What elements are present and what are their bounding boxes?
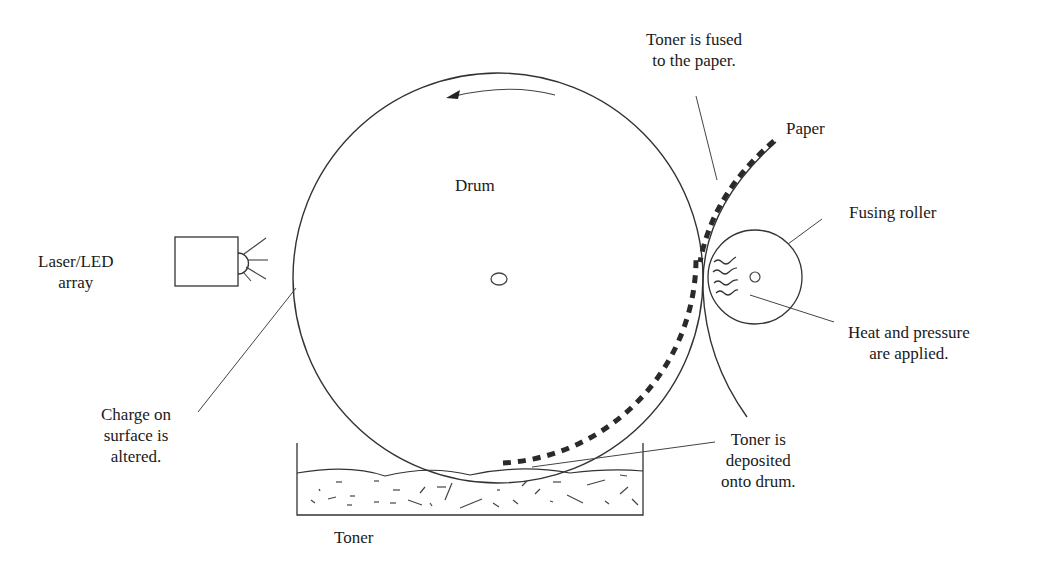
led-bulb-icon: [238, 253, 249, 274]
rotation-arrow-icon: [455, 89, 555, 96]
heat-waves-icon: [713, 257, 738, 295]
label-charge-line1: Charge on: [101, 404, 171, 425]
paper: [703, 142, 776, 417]
label-toner-fused: Toner is fused to the paper.: [646, 29, 742, 71]
label-fusing-roller: Fusing roller: [849, 202, 936, 223]
label-heat-line1: Heat and pressure: [848, 322, 970, 343]
label-deposited-line3: onto drum.: [721, 471, 796, 492]
toner-surface: [297, 469, 643, 476]
fusing-roller-axle: [750, 272, 760, 282]
label-drum: Drum: [455, 175, 495, 196]
laser-printer-diagram: [0, 0, 1038, 574]
drum: [293, 73, 703, 483]
label-fused-line2: to the paper.: [646, 50, 742, 71]
label-toner-deposited: Toner is deposited onto drum.: [721, 429, 796, 492]
toner-particles: [311, 475, 638, 508]
toner-on-drum: [503, 260, 696, 463]
drum-axle: [491, 273, 507, 285]
label-charge-line2: surface is: [101, 425, 171, 446]
label-toner: Toner: [334, 527, 373, 548]
arrowhead-icon: [446, 90, 460, 99]
label-charge-line3: altered.: [101, 446, 171, 467]
label-deposited-line2: deposited: [721, 450, 796, 471]
label-paper: Paper: [786, 118, 825, 139]
label-laser-line1: Laser/LED: [38, 251, 114, 272]
toner-on-paper: [700, 141, 774, 262]
label-laser-line2: array: [38, 272, 114, 293]
label-charge-altered: Charge on surface is altered.: [101, 404, 171, 467]
label-heat-line2: are applied.: [848, 343, 970, 364]
label-deposited-line1: Toner is: [721, 429, 796, 450]
laser-led-array: [175, 237, 238, 286]
fusing-roller: [708, 230, 802, 324]
label-laser-led-array: Laser/LED array: [38, 251, 114, 293]
label-fused-line1: Toner is fused: [646, 29, 742, 50]
label-heat-pressure: Heat and pressure are applied.: [848, 322, 970, 364]
